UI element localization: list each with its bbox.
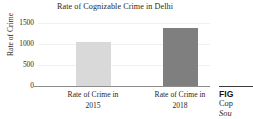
bar-chart-figure: Rate of Cognizable Crime in Delhi Rate o… bbox=[0, 0, 214, 119]
chart-title: Rate of Cognizable Crime in Delhi bbox=[20, 2, 210, 12]
x-tick-label-2018-line2: 2018 bbox=[137, 100, 223, 111]
y-tick-label-1500: 1500 bbox=[4, 19, 34, 27]
caption-text-line-1: Cop bbox=[219, 99, 233, 109]
bar-rate-of-crime-2018 bbox=[163, 28, 198, 86]
y-tick-label-500: 500 bbox=[4, 61, 34, 69]
x-tick-label-2015: Rate of Crime in 2015 bbox=[50, 89, 136, 111]
x-tick-label-2015-line1: Rate of Crime in bbox=[68, 90, 119, 99]
y-tick-label-0: 0 bbox=[4, 82, 34, 90]
x-axis-line bbox=[38, 86, 210, 87]
caption-figure-label: FIG bbox=[219, 89, 233, 99]
figure-page: Rate of Cognizable Crime in Delhi Rate o… bbox=[0, 0, 253, 119]
x-axis-tick-labels: Rate of Crime in 2015 Rate of Crime in 2… bbox=[38, 89, 210, 115]
x-tick-label-2018: Rate of Crime in 2018 bbox=[137, 89, 223, 111]
x-tick-label-2018-line1: Rate of Crime in bbox=[155, 90, 206, 99]
y-tick-label-1000: 1000 bbox=[4, 40, 34, 48]
caption-source-line: Sou bbox=[219, 109, 232, 119]
y-axis-tick-labels: 1500 1000 500 0 bbox=[3, 23, 34, 86]
gridline-1500 bbox=[38, 23, 210, 24]
caption-rule bbox=[219, 86, 253, 87]
bar-rate-of-crime-2015 bbox=[76, 42, 111, 86]
x-tick-label-2015-line2: 2015 bbox=[50, 100, 136, 111]
plot-area bbox=[38, 23, 210, 86]
figure-caption-block: FIG Cop Sou bbox=[219, 82, 253, 119]
